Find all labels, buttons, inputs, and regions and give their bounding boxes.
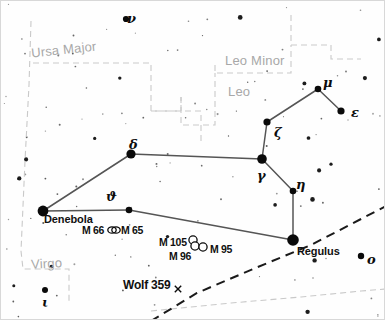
constellation-line-delta-gamma <box>131 154 262 159</box>
star-bayer[interactable] <box>126 207 133 214</box>
messier-symbol-open[interactable] <box>191 242 199 250</box>
special-objects <box>175 286 181 292</box>
background-star <box>73 35 75 37</box>
background-star <box>283 116 284 117</box>
star-denebola[interactable] <box>38 206 49 217</box>
star-bayer[interactable] <box>290 188 297 195</box>
star-bayer[interactable] <box>126 149 135 158</box>
background-star <box>228 135 229 136</box>
background-star <box>294 279 296 281</box>
background-star <box>86 87 88 89</box>
background-star <box>379 115 380 116</box>
background-star <box>201 165 203 167</box>
star-bayer[interactable] <box>337 107 344 114</box>
background-star <box>118 76 121 79</box>
star-bayer[interactable] <box>315 86 322 93</box>
background-star <box>75 185 77 187</box>
constellation-lines <box>43 89 341 240</box>
background-star <box>170 162 171 163</box>
background-star <box>5 96 6 97</box>
messier-symbol-open[interactable] <box>199 243 207 251</box>
background-star <box>337 75 338 76</box>
background-star <box>254 81 255 82</box>
background-star <box>8 4 9 5</box>
background-star <box>310 197 315 202</box>
star-bayer[interactable] <box>257 154 267 164</box>
background-star <box>24 53 26 55</box>
background-star <box>300 205 302 207</box>
background-star <box>130 256 131 257</box>
background-star <box>148 265 150 267</box>
background-star <box>312 277 313 278</box>
background-star <box>73 263 75 265</box>
constellation-line-Denebola-delta <box>43 154 131 211</box>
background-star <box>276 193 278 195</box>
star-regulus[interactable] <box>287 234 299 246</box>
background-star <box>102 113 104 115</box>
background-star <box>360 9 362 11</box>
star-bayer[interactable] <box>42 287 48 293</box>
background-star <box>273 203 277 207</box>
background-star <box>305 310 309 314</box>
background-star <box>302 88 304 90</box>
background-star <box>66 234 67 235</box>
background-star <box>363 76 367 80</box>
background-star <box>317 168 321 172</box>
background-star <box>122 289 124 291</box>
boundary-leo-west-step <box>151 97 181 111</box>
background-star <box>156 166 158 168</box>
background-star <box>322 202 324 204</box>
background-star <box>188 20 190 22</box>
background-star <box>57 54 59 56</box>
background-star <box>155 277 157 279</box>
background-star <box>266 145 268 147</box>
background-star <box>247 82 248 83</box>
background-star <box>82 178 84 180</box>
background-star <box>159 181 160 182</box>
background-star <box>129 224 131 226</box>
background-star <box>30 218 31 219</box>
background-star <box>329 163 332 166</box>
boundary-leo-minor-north <box>291 15 361 59</box>
background-star <box>4 103 5 104</box>
background-star <box>21 38 22 39</box>
background-star <box>81 118 82 119</box>
boundary-south-boundary <box>151 289 385 311</box>
constellation-line-gamma-zeta <box>262 122 267 159</box>
background-star <box>121 238 123 240</box>
background-star <box>238 15 243 20</box>
background-star <box>347 119 348 120</box>
star-bayer[interactable] <box>263 118 270 125</box>
background-star <box>345 71 347 73</box>
background-star <box>50 265 54 269</box>
background-star <box>12 284 15 287</box>
constellation-line-theta-Regulus <box>129 210 293 240</box>
background-star <box>135 33 136 34</box>
background-starfield <box>4 4 381 318</box>
background-star <box>372 113 374 115</box>
boundary-ursa-major-south <box>33 63 201 141</box>
background-star <box>154 304 156 306</box>
star-bayer[interactable] <box>358 253 364 259</box>
background-star <box>302 81 306 85</box>
background-star <box>206 18 208 20</box>
background-star <box>316 134 317 135</box>
boundary-leo-north <box>181 73 215 125</box>
background-star <box>232 176 233 177</box>
background-star <box>220 198 222 200</box>
background-star <box>185 117 187 119</box>
background-star <box>59 124 61 126</box>
background-star <box>76 206 78 208</box>
background-star <box>17 176 21 180</box>
background-star <box>8 219 9 220</box>
background-star <box>197 220 199 222</box>
background-star <box>377 38 381 42</box>
background-star <box>167 50 168 51</box>
constellation-line-mu-epsilon <box>318 89 341 111</box>
background-star <box>45 130 46 131</box>
background-star <box>121 113 123 115</box>
star-bayer[interactable] <box>123 16 129 22</box>
background-star <box>167 153 169 155</box>
background-star <box>266 70 268 72</box>
background-star <box>307 136 311 140</box>
